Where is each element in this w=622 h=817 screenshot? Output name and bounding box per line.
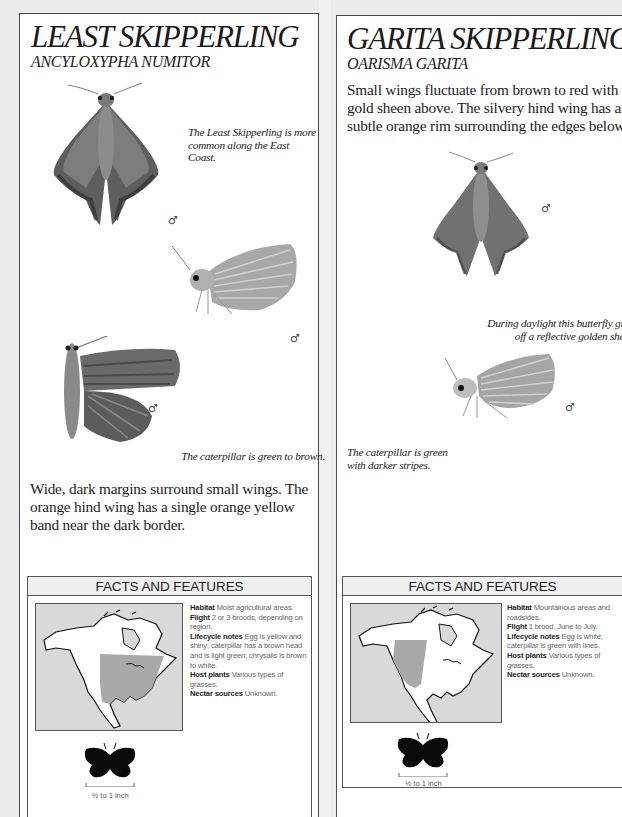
caption-daylight: During daylight this butterfly gives off… [487,317,622,342]
fact-flight: Flight 2 or 3 broods, depending on regio… [190,613,308,632]
species-description: Small wings fluctuate from brown to red … [347,81,622,135]
facts-and-features-panel: FACTS AND FEATURES Habitat Mountainous a… [342,576,622,788]
fact-habitat: Habitat Moist agricultural areas. [190,603,308,613]
butterfly-underside-illustration [150,242,320,322]
butterfly-underside-illustration [437,346,567,426]
male-symbol: ♂ [148,402,158,415]
page-gutter [319,0,331,817]
north-america-map-icon [351,604,502,723]
butterfly-upperside-illustration [417,146,547,286]
facts-and-features-panel: FACTS AND FEATURES Habitat Moist agricul… [27,576,312,817]
caption-caterpillar: The caterpillar is green with darker str… [347,446,462,471]
range-map [35,603,183,731]
male-symbol: ♂ [290,332,300,345]
facts-text: Habitat Moist agricultural areas. Flight… [190,603,308,699]
fact-habitat: Habitat Mountainous areas and roadsides. [507,603,622,622]
fact-host-plants: Host plants Various types of grasses. [507,651,622,670]
fact-lifecycle: Lifecycle notes Egg is yellow and shiny;… [190,632,308,670]
size-label: ½ to 1 inch [405,779,442,788]
facts-text: Habitat Mountainous areas and roadsides.… [507,603,622,680]
fact-host-plants: Host plants Various types of grasses. [190,670,308,689]
range-map [350,603,502,723]
butterfly-open-wing-illustration [40,336,190,446]
facts-header: FACTS AND FEATURES [343,577,622,596]
butterfly-upperside-illustration [46,80,186,230]
north-america-map-icon [36,604,183,731]
fact-lifecycle: Lifecycle notes Egg is white; caterpilla… [507,632,622,651]
male-symbol: ♂ [565,401,575,414]
caption-caterpillar: The caterpillar is green to brown. [175,450,325,463]
butterfly-silhouette-icon [395,733,451,777]
scientific-name: ANCYLOXYPHA NUMITOR [31,54,210,70]
scientific-name: OARISMA GARITA [347,56,468,72]
species-description: Wide, dark margins surround small wings.… [30,480,315,534]
butterfly-silhouette-icon [82,743,138,787]
facts-header: FACTS AND FEATURES [28,577,311,596]
male-symbol: ♂ [168,214,178,227]
fact-nectar: Nectar sources Unknown. [507,670,622,680]
page-garita-skipperling: GARITA SKIPPERLING OARISMA GARITA Small … [336,15,622,817]
caption-upperside: The Least Skipperling is more common alo… [188,126,318,164]
page-least-skipperling: LEAST SKIPPERLING ANCYLOXYPHA NUMITOR ♂ … [19,13,319,817]
fact-nectar: Nectar sources Unknown. [190,689,308,699]
species-title: GARITA SKIPPERLING [347,23,622,54]
species-title: LEAST SKIPPERLING [31,21,299,52]
size-label: ½ to 1 inch [92,791,129,800]
fact-flight: Flight 1 brood, June to July. [507,622,622,632]
male-symbol: ♂ [541,202,551,215]
